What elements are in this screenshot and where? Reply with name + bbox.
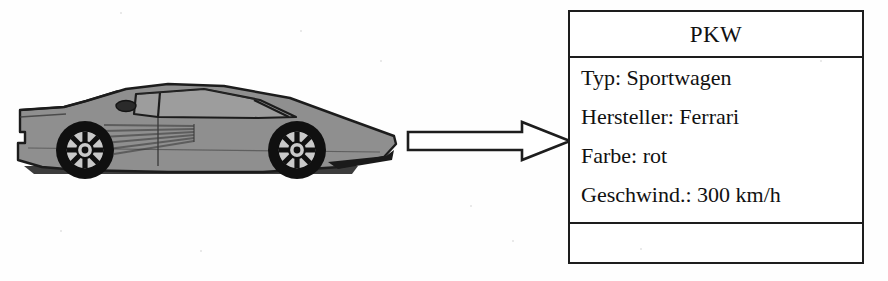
uml-operations-compartment (570, 224, 862, 262)
uml-class-name: PKW (690, 23, 743, 46)
uml-class-box: PKW Typ: Sportwagen Hersteller: Ferrari … (568, 10, 864, 264)
arrow-shape (408, 122, 570, 160)
uml-attributes-compartment: Typ: Sportwagen Hersteller: Ferrari Farb… (570, 58, 862, 222)
uml-attribute-row: Geschwind.: 300 km/h (581, 184, 862, 206)
transformation-arrow (404, 116, 574, 166)
uml-object-diagram-figure: PKW Typ: Sportwagen Hersteller: Ferrari … (0, 0, 888, 281)
uml-attribute-row: Typ: Sportwagen (581, 67, 862, 89)
uml-attribute-row: Farbe: rot (581, 145, 862, 167)
car-side-mirror (116, 101, 136, 112)
uml-class-name-compartment: PKW (570, 12, 862, 56)
uml-attribute-row: Hersteller: Ferrari (581, 106, 862, 128)
car-rear-wheel (56, 121, 114, 179)
car-front-wheel (268, 121, 326, 179)
sports-car-illustration (8, 70, 408, 190)
